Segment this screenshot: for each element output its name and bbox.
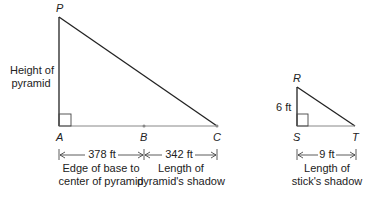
height-label-line-2: pyramid — [10, 77, 52, 90]
segment-bc-value: 342 ft — [165, 148, 193, 161]
segment-bc-caption-line-1: Length of — [137, 162, 225, 175]
point-b — [143, 125, 146, 128]
vertex-c-label: C — [213, 131, 221, 144]
hypotenuse-pc — [59, 17, 217, 126]
segment-ab-caption-line-2: center of pyramid — [59, 175, 144, 188]
right-angle-marker-s — [297, 114, 308, 126]
height-label-line-1: Height of — [10, 64, 52, 77]
segment-st-caption: Length of stick's shadow — [292, 162, 363, 188]
segment-st-value: 9 ft — [319, 148, 334, 161]
right-angle-marker-a — [59, 114, 71, 126]
segment-st-caption-line-1: Length of — [292, 162, 363, 175]
vertex-p-label: P — [56, 2, 63, 15]
segment-ab-caption: Edge of base to center of pyramid — [59, 162, 144, 188]
vertex-r-label: R — [293, 72, 301, 85]
segment-bc-caption: Length of pyramid's shadow — [137, 162, 225, 188]
vertex-s-label: S — [293, 131, 300, 144]
point-c — [216, 125, 219, 128]
segment-ab-caption-line-1: Edge of base to — [59, 162, 144, 175]
vertex-t-label: T — [352, 131, 359, 144]
vertex-a-label: A — [56, 131, 63, 144]
height-of-pyramid-label: Height of pyramid — [10, 64, 52, 90]
segment-ab-value: 378 ft — [88, 148, 116, 161]
stick-height-label: 6 ft — [276, 101, 291, 114]
hypotenuse-rt — [297, 87, 355, 126]
segment-bc-caption-line-2: pyramid's shadow — [137, 175, 225, 188]
segment-st-caption-line-2: stick's shadow — [292, 175, 363, 188]
vertex-b-label: B — [140, 131, 147, 144]
